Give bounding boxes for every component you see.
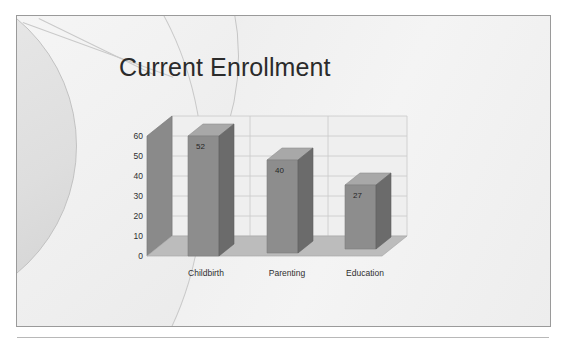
y-tick-10: 10	[134, 231, 144, 241]
y-tick-20: 20	[134, 211, 144, 221]
y-tick-50: 50	[134, 151, 144, 161]
category-label-education: Education	[346, 268, 384, 278]
chart-svg: 60 50 40 30 20 10 0 27	[117, 108, 417, 293]
y-tick-40: 40	[134, 171, 144, 181]
bar-education[interactable]: 27	[345, 173, 391, 249]
category-label-childbirth: Childbirth	[188, 268, 224, 278]
slide-title: Current Enrollment	[119, 52, 331, 82]
page-bottom-rule	[17, 337, 549, 338]
bar-childbirth[interactable]: 52	[188, 124, 234, 256]
bar-value-education: 27	[353, 191, 362, 200]
chart-side-wall	[147, 116, 172, 256]
enrollment-bar-chart[interactable]: 60 50 40 30 20 10 0 27	[117, 108, 417, 293]
bar-value-parenting: 40	[275, 166, 284, 175]
slide-screenshot: Current Enrollment	[0, 0, 566, 343]
presentation-slide: Current Enrollment	[16, 15, 551, 327]
category-label-parenting: Parenting	[269, 268, 306, 278]
y-tick-60: 60	[134, 131, 144, 141]
bar-parenting[interactable]: 40	[267, 148, 313, 253]
y-tick-0: 0	[138, 251, 143, 261]
bar-value-childbirth: 52	[196, 142, 205, 151]
x-axis-labels: Childbirth Parenting Education	[188, 268, 384, 278]
y-tick-30: 30	[134, 191, 144, 201]
y-axis-labels: 60 50 40 30 20 10 0	[134, 131, 144, 261]
